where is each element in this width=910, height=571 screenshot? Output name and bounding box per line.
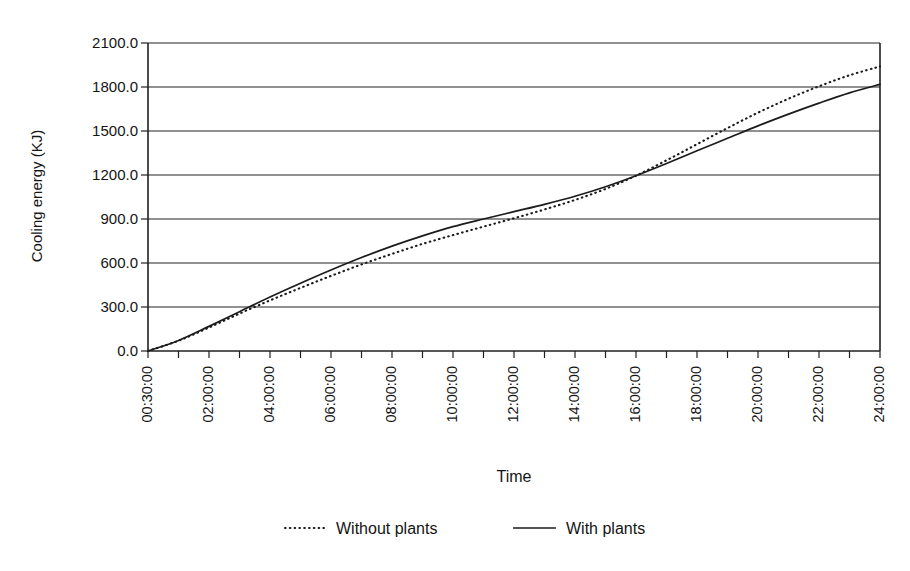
x-tick-label: 00:30:00 [139, 366, 155, 422]
legend-label-without-plants: Without plants [336, 520, 437, 537]
x-tick-label: 12:00:00 [505, 366, 521, 422]
y-tick-label: 1800.0 [92, 78, 138, 95]
series-line-without-plants [148, 66, 880, 351]
y-tick-label: 2100.0 [92, 34, 138, 51]
x-tick-label: 06:00:00 [322, 366, 338, 422]
x-tick-marks [148, 351, 880, 358]
x-tick-label: 08:00:00 [383, 366, 399, 422]
data-series-layer [148, 66, 880, 351]
x-tick-labels: 00:30:0002:00:0004:00:0006:00:0008:00:00… [139, 366, 887, 422]
y-tick-label: 0.0 [117, 342, 138, 359]
legend-label-with-plants: With plants [566, 520, 645, 537]
y-tick-marks [141, 43, 148, 351]
y-tick-label: 300.0 [100, 298, 138, 315]
x-tick-label: 04:00:00 [261, 366, 277, 422]
x-tick-label: 18:00:00 [688, 366, 704, 422]
horizontal-gridlines [148, 43, 880, 307]
x-tick-label: 14:00:00 [566, 366, 582, 422]
y-axis-title-text: Cooling energy (KJ) [28, 130, 45, 263]
y-tick-label: 1200.0 [92, 166, 138, 183]
x-tick-label: 02:00:00 [200, 366, 216, 422]
x-tick-label: 24:00:00 [871, 366, 887, 422]
chart-container: Cooling energy (KJ) 2100.0 1800.0 1500.0… [0, 0, 910, 571]
y-axis-title: Cooling energy (KJ) [28, 130, 45, 263]
x-axis-title: Time [497, 468, 532, 485]
x-tick-label: 10:00:00 [444, 366, 460, 422]
x-tick-label: 16:00:00 [627, 366, 643, 422]
y-tick-label: 1500.0 [92, 122, 138, 139]
x-tick-label: 20:00:00 [749, 366, 765, 422]
y-tick-labels: 2100.0 1800.0 1500.0 1200.0 900.0 600.0 … [92, 34, 138, 359]
chart-legend: Without plants With plants [285, 520, 645, 537]
y-tick-label: 900.0 [100, 210, 138, 227]
y-tick-label: 600.0 [100, 254, 138, 271]
cooling-energy-line-chart: Cooling energy (KJ) 2100.0 1800.0 1500.0… [0, 0, 910, 571]
x-tick-label: 22:00:00 [810, 366, 826, 422]
